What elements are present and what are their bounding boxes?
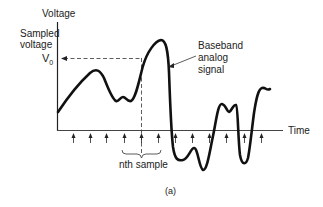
sample-arrow-icon	[260, 133, 264, 143]
sample-arrow-icon	[123, 133, 127, 143]
sample-arrow-icon	[72, 133, 76, 143]
sampled-voltage-label-line2: voltage	[20, 39, 52, 50]
sample-arrow-icon	[105, 133, 109, 143]
figure-caption: (a)	[165, 186, 176, 197]
sample-arrow-icon	[191, 133, 195, 143]
v0-label: V0	[42, 53, 53, 68]
signal-pointer-line	[171, 56, 196, 66]
signal-label-line2: analog	[198, 52, 228, 63]
sample-arrow-icon	[140, 133, 144, 143]
sample-arrow-icon	[174, 133, 178, 143]
y-axis-label: Voltage	[42, 8, 75, 19]
sample-arrow-icon	[225, 133, 229, 143]
baseband-analog-signal-curve	[58, 40, 270, 170]
nth-sample-label: nth sample	[119, 159, 168, 170]
v0-arrowhead-icon	[61, 56, 67, 61]
sampled-voltage-label-line1: Sampled	[20, 28, 59, 39]
sample-arrow-icon	[89, 133, 93, 143]
sample-arrow-icon	[157, 133, 161, 143]
sample-arrows	[72, 133, 264, 143]
sample-arrow-icon	[243, 133, 247, 143]
v0-label-subscript: 0	[49, 59, 53, 66]
signal-label-line1: Baseband	[198, 40, 243, 51]
time-axis-label: Time	[288, 125, 310, 136]
signal-label-line3: signal	[198, 64, 224, 75]
